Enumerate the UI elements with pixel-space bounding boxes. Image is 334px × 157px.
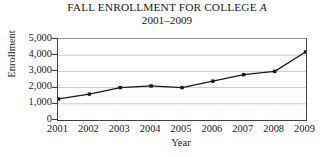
data-point: [88, 92, 91, 95]
y-axis-tick-label: 1,000: [4, 97, 52, 107]
y-axis-tick-label: 4,000: [4, 49, 52, 59]
plot-area: [57, 38, 307, 121]
chart-title-text: FALL ENROLLMENT FOR COLLEGE: [67, 1, 259, 13]
x-axis-tick-label: 2005: [164, 123, 198, 134]
x-axis-tick-label: 2007: [226, 123, 260, 134]
chart-subtitle: 2001–2009: [0, 14, 334, 27]
y-axis-tick-label: 2,000: [4, 81, 52, 91]
y-axis-tick-label: 0: [4, 114, 52, 124]
x-axis-tick-label: 2009: [288, 123, 322, 134]
x-axis-tick-label: 2001: [41, 123, 75, 134]
plot-svg: [58, 39, 306, 120]
data-point: [211, 79, 214, 82]
chart-title: FALL ENROLLMENT FOR COLLEGE A: [0, 1, 334, 14]
gridlines: [58, 55, 306, 104]
data-point: [180, 86, 183, 89]
x-axis-tick-label: 2008: [257, 123, 291, 134]
enrollment-line: [59, 52, 306, 99]
x-axis-tick-label: 2003: [102, 123, 136, 134]
data-point: [273, 70, 276, 73]
x-axis-title: Year: [55, 136, 307, 149]
x-axis-tick-label: 2004: [133, 123, 167, 134]
data-point: [149, 84, 152, 87]
x-axis-tick-label: 2002: [71, 123, 105, 134]
y-axis-tick-label: 3,000: [4, 65, 52, 75]
data-point: [242, 73, 245, 76]
data-point: [58, 97, 60, 100]
data-point: [304, 50, 306, 53]
data-point: [119, 86, 122, 89]
x-axis-tick-label: 2006: [195, 123, 229, 134]
enrollment-line-chart: FALL ENROLLMENT FOR COLLEGE A 2001–2009 …: [0, 0, 334, 157]
y-axis-tick-label: 5,000: [4, 33, 52, 43]
chart-title-college-letter: A: [260, 1, 267, 13]
